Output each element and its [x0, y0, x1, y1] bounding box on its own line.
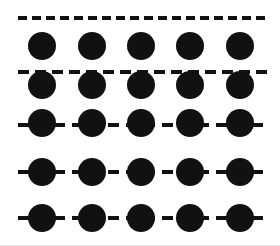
data-point-circle: [28, 32, 56, 60]
data-point-circle: [78, 71, 106, 99]
data-point-circle: [176, 158, 204, 186]
data-point-circle: [78, 109, 106, 137]
data-point-circle: [78, 204, 106, 232]
data-point-circle: [176, 32, 204, 60]
data-point-circle: [226, 204, 254, 232]
data-point-circle: [176, 109, 204, 137]
data-point-circle: [127, 158, 155, 186]
data-point-circle: [28, 71, 56, 99]
data-point-circle: [226, 71, 254, 99]
data-point-circle: [127, 204, 155, 232]
figure-root: [0, 0, 280, 246]
data-point-circle: [28, 158, 56, 186]
data-point-circle: [226, 158, 254, 186]
data-point-circle: [127, 109, 155, 137]
data-point-circle: [78, 158, 106, 186]
data-point-circle: [127, 71, 155, 99]
data-point-circle: [78, 32, 106, 60]
data-point-circle: [226, 109, 254, 137]
data-point-circle: [127, 32, 155, 60]
data-point-circle: [28, 109, 56, 137]
data-point-circle: [28, 204, 56, 232]
data-point-circle: [176, 204, 204, 232]
data-point-circle: [226, 32, 254, 60]
data-point-circle: [176, 71, 204, 99]
figure-canvas: [0, 0, 280, 246]
